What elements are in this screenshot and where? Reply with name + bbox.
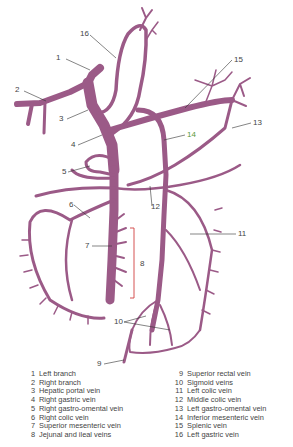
left-colic-vein: [166, 190, 212, 330]
legend-left-column: 1Left branch 2Right branch 3Hepatic port…: [24, 370, 123, 440]
callout-13: 13: [253, 119, 262, 127]
inferior-mesenteric-vein: [138, 110, 166, 330]
callout-15: 15: [234, 56, 243, 64]
callout-3: 3: [59, 115, 63, 123]
callout-4: 4: [71, 141, 75, 149]
portal-vein-diagram: [0, 0, 293, 365]
sigmoid-veins: [129, 300, 200, 353]
middle-colic-vein: [114, 165, 240, 189]
superior-rectal-vein: [124, 330, 132, 362]
splenic-vein: [110, 100, 232, 130]
callout-8: 8: [140, 260, 144, 268]
jejunal-bracket: [130, 228, 134, 298]
callout-9: 9: [97, 360, 101, 368]
callout-14: 14: [187, 131, 196, 139]
legend-right-column: 9Superior rectal vein 10Sigmoid veins 11…: [172, 370, 266, 440]
callout-1: 1: [56, 54, 60, 62]
callout-12: 12: [151, 203, 160, 211]
callout-7: 7: [85, 242, 89, 250]
right-branch-vein: [17, 83, 88, 104]
callout-5: 5: [62, 168, 66, 176]
callout-2: 2: [15, 86, 19, 94]
callout-6: 6: [69, 201, 73, 209]
callout-16: 16: [80, 30, 89, 38]
callout-10: 10: [114, 318, 123, 326]
legend-item: 8Jejunal and ileal veins: [24, 431, 123, 440]
legend-item: 16Left gastric vein: [172, 431, 266, 440]
callout-11: 11: [238, 230, 246, 238]
